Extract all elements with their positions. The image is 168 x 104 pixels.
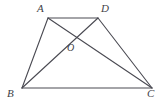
segment-ac — [48, 18, 152, 88]
vertex-label-b: B — [7, 88, 14, 99]
vertex-label-a: A — [37, 3, 44, 14]
segment-dc — [98, 18, 152, 88]
geometry-figure: A D O B C — [0, 0, 168, 104]
geometry-canvas — [0, 0, 168, 104]
segment-ab — [22, 18, 48, 88]
segment-bd — [22, 18, 98, 88]
vertex-label-c: C — [147, 88, 154, 99]
vertex-label-o: O — [67, 42, 74, 53]
vertex-label-d: D — [101, 3, 109, 14]
segments-group — [22, 18, 152, 88]
